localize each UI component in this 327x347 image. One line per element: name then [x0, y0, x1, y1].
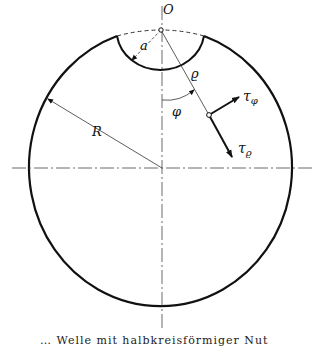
- radius-R-line: [48, 99, 162, 168]
- figure-caption: … Welle mit halbkreisförmiger Nut: [40, 334, 268, 347]
- semicircular-notch: [117, 36, 204, 70]
- origin-point: [159, 28, 163, 32]
- outer-circle-boundary: [29, 36, 292, 306]
- label-tau-rho: τϱ: [238, 140, 252, 158]
- label-tau-phi: τφ: [243, 88, 258, 106]
- tau-rho-arrow: [209, 115, 232, 157]
- tau-phi-arrow: [209, 97, 239, 115]
- stress-point: [207, 113, 212, 118]
- label-a: a: [140, 38, 148, 53]
- label-phi: φ: [172, 104, 182, 119]
- label-R: R: [91, 124, 102, 139]
- phi-angle-arc: [162, 90, 194, 100]
- label-rho: ϱ: [191, 66, 199, 81]
- label-origin: O: [163, 2, 174, 17]
